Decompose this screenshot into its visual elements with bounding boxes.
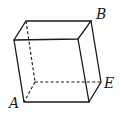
hidden-edge-vertical xyxy=(26,21,35,82)
label-a: A xyxy=(7,95,19,111)
visible-edges xyxy=(14,21,101,102)
top-face xyxy=(14,21,91,40)
hidden-edges xyxy=(24,21,101,102)
right-face xyxy=(89,21,101,102)
parallelepiped-figure: B E A xyxy=(0,0,121,121)
label-e: E xyxy=(103,75,114,91)
label-b: B xyxy=(95,6,106,22)
box-diagram: B E A xyxy=(0,0,121,121)
front-face xyxy=(14,39,89,102)
hidden-edge-diagonal xyxy=(24,82,35,102)
